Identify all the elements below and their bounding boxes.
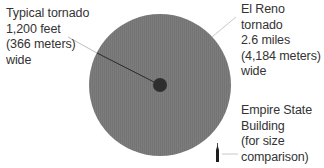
- el-reno-line-5: wide: [241, 64, 321, 80]
- typical-tornado-circle: [153, 78, 167, 92]
- typical-tornado-line-2: 1,200 feet: [6, 22, 89, 38]
- typical-tornado-line-4: wide: [6, 53, 89, 69]
- el-reno-tornado-label: El Reno tornado 2.6 miles (4,184 meters)…: [241, 2, 321, 80]
- esb-line-3: (for size: [241, 134, 312, 150]
- el-reno-line-3: 2.6 miles: [241, 33, 321, 49]
- el-reno-line-1: El Reno: [241, 2, 321, 18]
- el-reno-line-4: (4,184 meters): [241, 49, 321, 65]
- el-reno-leader-line: [212, 17, 236, 37]
- typical-tornado-line-1: Typical tornado: [6, 6, 89, 22]
- typical-tornado-line-3: (366 meters): [6, 37, 89, 53]
- el-reno-line-2: tornado: [241, 18, 321, 34]
- typical-tornado-label: Typical tornado 1,200 feet (366 meters) …: [6, 6, 89, 68]
- esb-line-4: comparison): [241, 150, 312, 166]
- esb-line-2: Building: [241, 119, 312, 135]
- building-icon: [216, 143, 219, 162]
- tornado-size-diagram: Typical tornado 1,200 feet (366 meters) …: [0, 0, 324, 168]
- esb-line-1: Empire State: [241, 103, 312, 119]
- empire-state-building-label: Empire State Building (for size comparis…: [241, 103, 312, 165]
